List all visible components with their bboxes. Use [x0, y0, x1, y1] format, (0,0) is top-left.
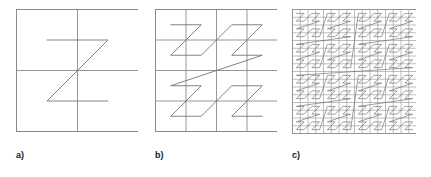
z-curve-diagram-order-4: [292, 9, 416, 138]
z-curve-diagram-order-1: [16, 9, 138, 138]
panel-label-c: c): [292, 150, 300, 161]
panel-label-a: a): [16, 150, 24, 161]
figure-container: a) b) c): [0, 0, 431, 177]
z-curve-diagram-order-2: [155, 9, 277, 138]
panel-label-b: b): [155, 150, 164, 161]
panel-a: [16, 9, 138, 138]
panel-b: [155, 9, 277, 138]
panel-c: [292, 9, 416, 138]
